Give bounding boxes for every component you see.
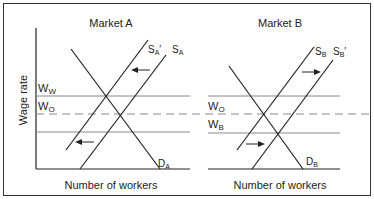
diagram: Market A Wage rate Number of workers WW … [0, 0, 374, 199]
demand-b-line [229, 66, 303, 169]
demand-a-label: DA [158, 158, 170, 170]
supply-a-line [80, 55, 166, 169]
arrow-head-icon [258, 141, 265, 147]
market-b-x-label: Number of workers [234, 179, 327, 191]
market-b-title: Market B [258, 17, 302, 29]
wo-b-label: WO [208, 100, 225, 114]
supply-b-label: SB [315, 46, 327, 58]
arrow-head-icon [131, 67, 138, 73]
supply-b-new-label: SB′ [333, 46, 346, 58]
arrow-head-icon [75, 139, 82, 145]
wb-label: WB [208, 118, 224, 132]
y-axis-label: Wage rate [17, 75, 29, 125]
demand-a-line [71, 49, 160, 169]
demand-b-label: DB [306, 156, 318, 168]
labor-market-diagram: Market A Wage rate Number of workers WW … [0, 0, 374, 199]
supply-a-new-label: SA′ [148, 44, 161, 56]
supply-b-line [237, 47, 314, 150]
ww-label: WW [38, 82, 56, 96]
arrow-head-icon [314, 69, 321, 75]
market-a-title: Market A [89, 17, 133, 29]
wo-a-label: WO [38, 100, 55, 114]
market-a-x-label: Number of workers [65, 179, 158, 191]
supply-a-label: SA [172, 44, 184, 56]
